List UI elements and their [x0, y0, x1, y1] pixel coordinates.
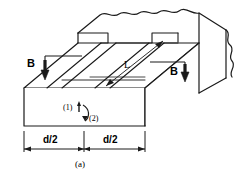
slot-opening [78, 33, 178, 44]
figure-caption: (a) [75, 160, 85, 169]
label-length: L [124, 60, 130, 70]
label-b-left: B [27, 58, 35, 69]
block-fills [103, 11, 232, 35]
label-face-two: (2) [89, 115, 98, 123]
engineering-figure [0, 0, 245, 176]
label-dim-left: d/2 [43, 135, 57, 145]
label-b-right: B [170, 66, 178, 77]
label-face-one: (1) [63, 104, 72, 112]
label-dim-right: d/2 [103, 135, 117, 145]
